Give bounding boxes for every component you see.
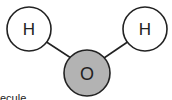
bond-left (45, 41, 71, 58)
atom-hydrogen-left: H (7, 7, 51, 51)
bond-right (104, 41, 129, 58)
atom-label: H (139, 20, 151, 39)
atom-label: H (23, 20, 35, 39)
caption-partial: ecule (0, 93, 26, 100)
atom-oxygen: O (64, 50, 110, 96)
atom-label: O (80, 64, 94, 84)
water-molecule-diagram: H H O (0, 0, 172, 100)
atom-hydrogen-right: H (123, 7, 167, 51)
